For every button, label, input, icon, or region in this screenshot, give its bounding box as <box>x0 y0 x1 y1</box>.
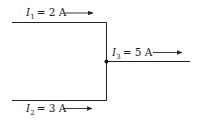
junction-diagram: I1= 2 A I3= 5 A I2= 3 A <box>0 0 200 123</box>
svg-text:I3= 5 A: I3= 5 A <box>111 46 153 61</box>
i3-subscript: 3 <box>116 53 120 61</box>
i2-value: = 3 A <box>37 102 67 114</box>
i1-value: = 2 A <box>37 6 67 18</box>
svg-text:I1= 2 A: I1= 2 A <box>25 6 67 21</box>
current-label-i2: I2= 3 A <box>25 102 92 117</box>
junction-node <box>105 60 109 64</box>
i1-subscript: 1 <box>30 13 34 21</box>
i3-value: = 5 A <box>123 46 153 58</box>
current-label-i3: I3= 5 A <box>111 46 182 61</box>
i2-subscript: 2 <box>30 109 34 117</box>
current-label-i1: I1= 2 A <box>25 6 93 21</box>
svg-text:I2= 3 A: I2= 3 A <box>25 102 67 117</box>
